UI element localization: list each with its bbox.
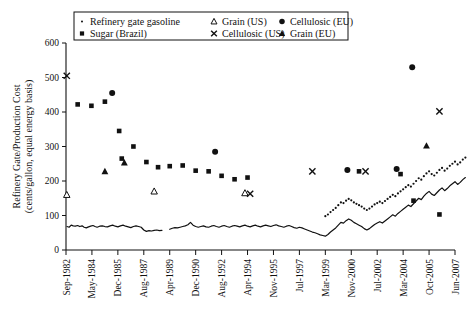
y-axis-tick-label: 600 [45, 38, 60, 48]
datapoint-circle [394, 166, 400, 172]
x-axis-tick-label: Dec-1990 [191, 259, 201, 297]
legend-marker-dot [81, 20, 83, 22]
gasoline-upper-dot [353, 201, 355, 203]
datapoint-cross [436, 108, 442, 114]
x-axis-tick-label: Apr-1989 [165, 259, 175, 296]
gasoline-upper-dot [345, 200, 347, 202]
datapoint-square [357, 169, 362, 174]
series-refinery-gate-gasoline [67, 156, 466, 236]
x-axis-tick-label: Nov-2000 [347, 259, 357, 298]
gasoline-upper-dot [420, 179, 422, 181]
datapoint-square [206, 169, 211, 174]
series-cellulosic-us [64, 73, 443, 197]
x-axis-tick-label: Jul-2002 [373, 259, 383, 293]
gasoline-upper-dot [332, 209, 334, 211]
gasoline-upper-dot [399, 190, 401, 192]
datapoint-circle [212, 149, 218, 155]
legend-item-cellulosic-us[interactable]: Cellulosic (US) [211, 28, 284, 40]
datapoint-cross [247, 191, 253, 197]
gasoline-upper-dot [446, 167, 448, 169]
datapoint-triangle-filled [101, 168, 108, 174]
x-axis-tick-label: Aug-1987 [139, 259, 149, 298]
legend-label: Sugar (Brazil) [90, 28, 147, 40]
chart-figure: 0100200300400500600 Sep-1982May-1984Dec-… [0, 0, 472, 316]
datapoint-triangle-open [151, 188, 157, 194]
x-axis-tick-label: Mar-2004 [399, 259, 409, 297]
gasoline-upper-dot [462, 159, 464, 161]
gasoline-upper-dot [410, 185, 412, 187]
datapoint-square [117, 129, 122, 134]
gasoline-upper-dot [433, 174, 435, 176]
chart-plot-area: 0100200300400500600 Sep-1982May-1984Dec-… [0, 0, 472, 316]
legend-marker-circle [279, 19, 285, 25]
gasoline-upper-dot [366, 209, 368, 211]
y-axis-tick-label: 100 [45, 211, 60, 221]
datapoint-square [156, 165, 161, 170]
gasoline-upper-dot [407, 184, 409, 186]
legend-item-sugar-brazil[interactable]: Sugar (Brazil) [80, 28, 147, 40]
datapoint-triangle-filled [423, 142, 430, 148]
y-axis-title: Refinery Gate/Production Cost(cents/gall… [11, 80, 35, 214]
y-axis-tick-label: 300 [45, 142, 60, 152]
datapoint-square [437, 212, 442, 217]
datapoint-square [89, 103, 94, 108]
series-cellulosic-eu [109, 64, 415, 173]
gasoline-upper-dot [397, 192, 399, 194]
gasoline-upper-dot [327, 213, 329, 215]
gasoline-upper-dot [368, 208, 370, 210]
datapoint-cross [362, 168, 368, 174]
legend-label: Grain (EU) [290, 28, 335, 40]
series-grain-eu [101, 142, 429, 174]
gasoline-line-segment [67, 225, 162, 231]
datapoint-square [398, 172, 403, 177]
datapoint-square [193, 168, 198, 173]
series-grain-us [64, 188, 249, 198]
gasoline-upper-dot [358, 204, 360, 206]
legend-label: Grain (US) [222, 16, 267, 28]
gasoline-upper-dot [374, 203, 376, 205]
x-axis-tick-label: Dec-1985 [113, 259, 123, 297]
x-axis-tick-label: Apr-1994 [243, 259, 253, 296]
gasoline-upper-dot [386, 198, 388, 200]
y-axis: 0100200300400500600 [45, 38, 66, 255]
gasoline-upper-dot [451, 163, 453, 165]
legend-item-cellulosic-eu[interactable]: Cellulosic (EU) [279, 16, 353, 28]
x-axis-tick-label: Oct-2005 [425, 259, 435, 295]
y-axis-title-line1: Refinery Gate/Production Cost [11, 84, 22, 208]
gasoline-upper-dot [449, 165, 451, 167]
datapoint-square [167, 164, 172, 169]
datapoint-square [180, 163, 185, 168]
y-axis-tick-label: 400 [45, 107, 60, 117]
gasoline-upper-dot [418, 177, 420, 179]
gasoline-upper-dot [423, 175, 425, 177]
gasoline-upper-dot [350, 199, 352, 201]
gasoline-upper-dot [340, 201, 342, 203]
x-axis-tick-label: Nov-1995 [269, 259, 279, 298]
chart-legend: Refinery gate gasolineSugar (Brazil)Grai… [74, 12, 353, 40]
datapoint-square [144, 160, 149, 165]
gasoline-upper-dot [363, 208, 365, 210]
gasoline-upper-dot [392, 194, 394, 196]
gasoline-upper-dot [441, 167, 443, 169]
gasoline-upper-dot [381, 202, 383, 204]
datapoint-circle [344, 167, 350, 173]
x-axis-tick-label: Sep-1982 [62, 259, 72, 296]
x-axis-tick-label: Aug-1992 [217, 259, 227, 298]
gasoline-line-segment [170, 178, 466, 237]
datapoint-square [411, 198, 416, 203]
datapoint-square [131, 144, 136, 149]
legend-item-refinery-gate-gasoline[interactable]: Refinery gate gasoline [81, 16, 181, 27]
legend-marker-square [80, 31, 84, 35]
gasoline-upper-dot [464, 156, 466, 158]
legend-label: Cellulosic (EU) [290, 16, 353, 28]
gasoline-upper-dot [412, 183, 414, 185]
gasoline-upper-dot [389, 196, 391, 198]
gasoline-upper-dot [431, 173, 433, 175]
x-axis-tick-label: Jul-1997 [295, 259, 305, 293]
datapoint-circle [409, 64, 415, 70]
data-series-layer [64, 64, 467, 236]
y-axis-tick-label: 200 [45, 176, 60, 186]
gasoline-upper-dot [394, 195, 396, 197]
gasoline-upper-dot [329, 211, 331, 213]
x-axis-tick-label: Mar-1999 [321, 259, 331, 297]
